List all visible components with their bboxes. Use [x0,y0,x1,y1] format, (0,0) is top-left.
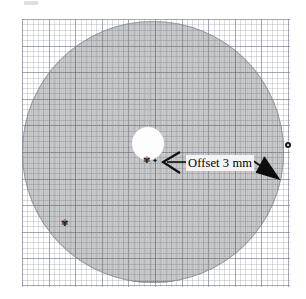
right-edge-reference-dot-core [287,144,289,146]
offset-annotation-label: Offset 3 mm [186,155,254,171]
debris-speck-c: ✾ [61,219,69,228]
surface-scratch-upper [148,86,149,128]
figure-container: ✾ ✦ ✾ Offset 3 mm [0,0,306,299]
scan-artifact-bar [24,1,38,5]
surface-scratch-lower [150,250,151,280]
debris-speck-a: ✾ [143,156,151,165]
debris-speck-b: ✦ [152,157,158,166]
